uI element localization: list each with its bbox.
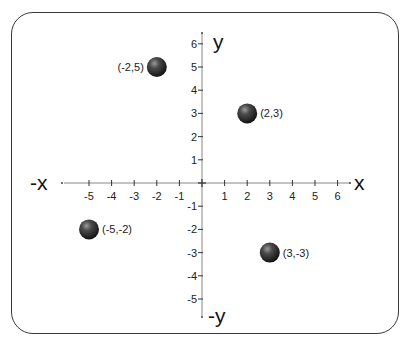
y-axis-ticks: 654321-1-2-3-4-5 [187, 38, 203, 305]
x-tick-label: 6 [335, 190, 341, 202]
negative-y-label: -y [208, 304, 226, 327]
y-tick-label: 3 [191, 107, 197, 119]
point-marker [79, 219, 99, 239]
negative-x-label: -x [30, 171, 48, 194]
x-tick-label: 1 [222, 190, 228, 202]
x-tick-label: 5 [312, 190, 318, 202]
point-marker [147, 57, 167, 77]
x-tick-label: 4 [289, 190, 295, 202]
y-tick-label: -1 [187, 200, 197, 212]
x-tick-label: 2 [244, 190, 250, 202]
x-tick-label: 3 [267, 190, 273, 202]
y-tick-label: -5 [187, 293, 197, 305]
coordinate-plane: -5-4-3-2-1123456 654321-1-2-3-4-5 (-2,5)… [0, 0, 412, 346]
point-label: (2,3) [260, 107, 283, 119]
positive-y-label: y [213, 30, 224, 53]
x-tick-label: -4 [107, 190, 117, 202]
positive-x-label: x [354, 171, 365, 194]
x-tick-label: -3 [129, 190, 139, 202]
y-tick-label: 4 [191, 84, 197, 96]
y-tick-label: -2 [187, 223, 197, 235]
y-tick-label: -4 [187, 270, 197, 282]
point-marker [237, 103, 257, 123]
point-marker [260, 243, 280, 263]
x-tick-label: -1 [175, 190, 185, 202]
x-tick-label: -2 [152, 190, 162, 202]
point-label: (-2,5) [118, 61, 144, 73]
y-tick-label: 1 [191, 154, 197, 166]
y-tick-label: 6 [191, 38, 197, 50]
y-tick-label: -3 [187, 247, 197, 259]
x-tick-label: -5 [84, 190, 94, 202]
y-tick-label: 5 [191, 61, 197, 73]
y-tick-label: 2 [191, 131, 197, 143]
point-label: (-5,-2) [102, 223, 132, 235]
point-label: (3,-3) [283, 247, 309, 259]
